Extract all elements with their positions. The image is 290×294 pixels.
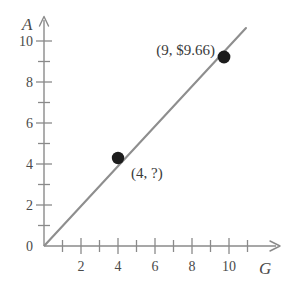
proportional-line (45, 28, 247, 246)
point-label-lower: (4, ?) (131, 165, 163, 182)
y-tick-label-6: 6 (26, 116, 33, 131)
y-tick-label-2: 2 (26, 198, 33, 213)
x-tick-label-8: 8 (189, 259, 196, 274)
data-point-9 (218, 51, 231, 64)
x-axis (44, 241, 280, 251)
x-tick-label-2: 2 (78, 259, 85, 274)
point-label-upper: (9, $9.66) (156, 42, 215, 59)
graph-figure: 10 8 6 4 2 0 2 4 6 8 10 A G (9, $9.66) (… (0, 0, 290, 294)
data-point-4 (112, 152, 124, 164)
y-tick-labels: 10 8 6 4 2 0 (19, 34, 33, 254)
y-tick-label-0: 0 (26, 239, 33, 254)
x-tick-label-10: 10 (222, 259, 236, 274)
coordinate-plot: 10 8 6 4 2 0 2 4 6 8 10 A G (9, $9.66) (… (0, 0, 290, 294)
y-tick-label-8: 8 (26, 75, 33, 90)
x-tick-label-4: 4 (115, 259, 122, 274)
y-axis (40, 17, 49, 247)
x-tick-label-6: 6 (152, 259, 159, 274)
y-axis-name: A (21, 15, 33, 34)
x-tick-labels: 2 4 6 8 10 (78, 259, 237, 274)
y-tick-label-4: 4 (26, 157, 33, 172)
x-axis-name: G (259, 259, 271, 278)
y-tick-label-10: 10 (19, 34, 33, 49)
